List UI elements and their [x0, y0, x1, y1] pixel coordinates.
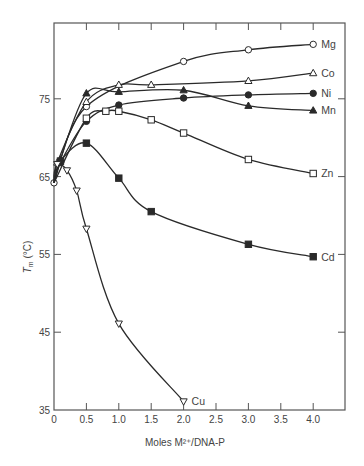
series-zn: Zn	[54, 108, 334, 183]
filled-circle-marker	[310, 90, 316, 96]
y-tick-label: 75	[39, 94, 51, 105]
filled-circle-marker	[245, 92, 251, 98]
series-group: MgCoNiMnZnCdCu	[51, 38, 336, 407]
series-label: Mn	[321, 104, 336, 116]
open-triangle-down-marker	[180, 399, 187, 405]
open-triangle-down-marker	[83, 226, 90, 232]
series-line	[54, 143, 313, 257]
x-tick-label: 1.5	[144, 414, 158, 425]
series-line	[54, 164, 184, 402]
plot-border	[54, 23, 345, 410]
filled-square-marker	[116, 175, 122, 181]
open-square-marker	[310, 170, 316, 176]
open-circle-marker	[180, 58, 186, 64]
svg-text:Tm (°C): Tm (°C)	[22, 241, 34, 274]
x-tick-label: 0	[51, 414, 57, 425]
x-tick-label: 2.5	[209, 414, 223, 425]
x-tick-label: 1.0	[112, 414, 126, 425]
open-square-marker	[116, 108, 122, 114]
series-label: Ni	[321, 87, 331, 99]
open-triangle-up-marker	[310, 69, 317, 75]
y-axis-title-rest: (°C)	[22, 241, 33, 262]
x-tick-label: 3.5	[274, 414, 288, 425]
x-axis-title: Moles M²⁺/DNA-P	[145, 437, 225, 448]
y-tick-label: 45	[39, 327, 51, 338]
filled-circle-marker	[180, 95, 186, 101]
x-tick-label: 0.5	[79, 414, 93, 425]
series-cu: Cu	[54, 162, 206, 408]
series-label: Cu	[192, 395, 206, 407]
plot-frame	[54, 23, 345, 410]
x-tick-label: 4.0	[306, 414, 320, 425]
open-triangle-down-marker	[115, 321, 122, 327]
series-mn: Mn	[54, 86, 336, 182]
open-circle-marker	[310, 41, 316, 47]
series-cd: Cd	[54, 140, 335, 263]
filled-circle-marker	[116, 102, 122, 108]
open-square-marker	[103, 108, 109, 114]
series-label: Zn	[321, 167, 333, 179]
open-square-marker	[148, 117, 154, 123]
y-tick-label: 65	[39, 172, 51, 183]
series-label: Co	[321, 67, 335, 79]
filled-square-marker	[310, 254, 316, 260]
y-tick-label: 55	[39, 249, 51, 260]
open-square-marker	[180, 130, 186, 136]
x-tick-label: 3.0	[241, 414, 255, 425]
melting-temperature-chart: 00.51.01.52.02.53.03.54.0 3545556575 MgC…	[0, 0, 364, 466]
series-label: Cd	[321, 251, 335, 263]
y-tick-label: 35	[39, 405, 51, 416]
open-square-marker	[83, 115, 89, 121]
series-line	[54, 93, 313, 182]
open-circle-marker	[245, 47, 251, 53]
open-square-marker	[245, 156, 251, 162]
x-tick-label: 2.0	[177, 414, 191, 425]
filled-square-marker	[245, 241, 251, 247]
y-axis-title: Tm (°C)	[22, 241, 34, 274]
open-triangle-down-marker	[73, 188, 80, 194]
filled-square-marker	[148, 208, 154, 214]
series-label: Mg	[321, 38, 336, 50]
filled-square-marker	[83, 140, 89, 146]
series-co: Co	[54, 67, 335, 183]
